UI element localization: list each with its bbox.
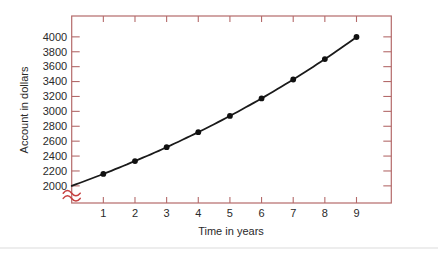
compound-interest-figure: 2000220024002600280030003200340036003800… [0,0,438,255]
bottom-divider [0,247,438,249]
y-tick-label: 3000 [43,105,67,117]
y-tick-label: 2400 [43,150,67,162]
y-tick-label: 3400 [43,75,67,87]
y-tick-label: 3200 [43,90,67,102]
x-tick-label: 4 [195,207,201,219]
y-tick-label: 4000 [43,31,67,43]
data-point [132,158,138,164]
y-axis-title: Account in dollars [18,66,30,153]
x-tick-label: 9 [353,207,359,219]
growth-curve [72,37,357,186]
x-tick-label: 7 [290,207,296,219]
x-tick-label: 1 [100,207,106,219]
data-point [195,129,201,135]
data-point [322,56,328,62]
y-tick-label: 2600 [43,135,67,147]
data-point [290,77,296,83]
x-tick-label: 6 [258,207,264,219]
y-tick-label: 3800 [43,46,67,58]
page: 2000220024002600280030003200340036003800… [0,0,438,255]
data-point [227,113,233,119]
x-axis-title: Time in years [198,225,264,237]
x-tick-label: 3 [164,207,170,219]
chart-canvas: 2000220024002600280030003200340036003800… [0,0,438,255]
y-tick-label: 2800 [43,120,67,132]
y-tick-label: 2000 [43,180,67,192]
data-point [164,144,170,150]
y-tick-label: 3600 [43,60,67,72]
y-tick-label: 2200 [43,165,67,177]
plot-frame [72,16,392,203]
data-point [354,34,360,40]
data-point [259,95,265,101]
x-tick-label: 2 [132,207,138,219]
generated-chart-layer: 2000220024002600280030003200340036003800… [43,16,392,219]
x-tick-label: 5 [227,207,233,219]
x-tick-label: 8 [322,207,328,219]
data-point [100,171,106,177]
